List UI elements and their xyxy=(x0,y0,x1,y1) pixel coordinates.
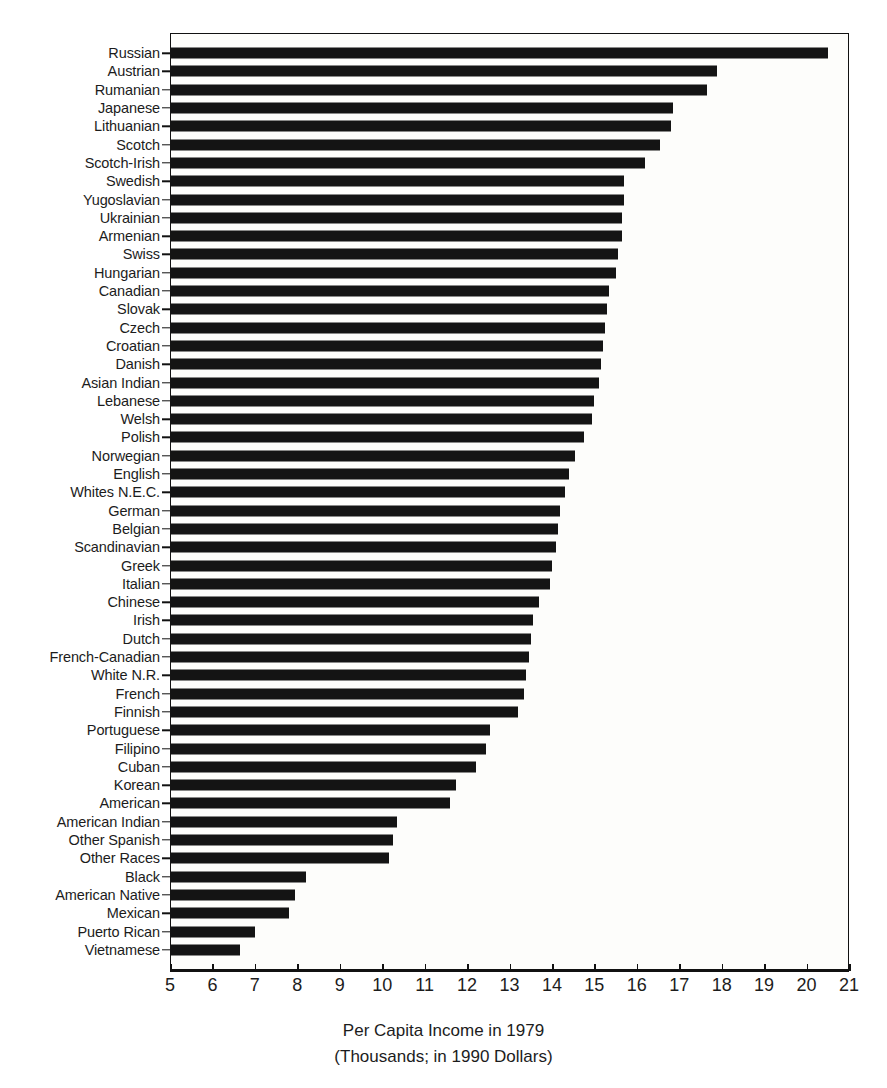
bar xyxy=(170,377,599,388)
category-label: Armenian xyxy=(99,227,160,245)
bar xyxy=(170,286,609,297)
bar-row xyxy=(170,904,849,922)
category-label: American Native xyxy=(55,886,160,904)
category-tick xyxy=(162,803,170,804)
bar-row xyxy=(170,758,849,776)
bar-row xyxy=(170,502,849,520)
category-label: Russian xyxy=(108,44,160,62)
category-label: Lithuanian xyxy=(94,117,160,135)
bar xyxy=(170,432,584,443)
bar xyxy=(170,121,671,132)
category-label-row: Filipino xyxy=(0,739,170,757)
bar xyxy=(170,304,607,315)
category-label-row: Greek xyxy=(0,556,170,574)
x-axis-tick xyxy=(594,964,596,971)
category-label: Finnish xyxy=(114,703,160,721)
category-tick xyxy=(162,858,170,859)
category-label: Scandinavian xyxy=(74,538,160,556)
x-axis-tick-label: 5 xyxy=(165,975,175,996)
category-label-row: Belgian xyxy=(0,520,170,538)
category-label: Slovak xyxy=(117,300,160,318)
category-label: American Indian xyxy=(57,813,160,831)
category-tick xyxy=(162,272,170,273)
bar-row xyxy=(170,538,849,556)
category-label-row: Chinese xyxy=(0,593,170,611)
category-label-row: Dutch xyxy=(0,630,170,648)
x-axis-tick-label: 21 xyxy=(839,975,859,996)
category-label: Filipino xyxy=(115,739,160,757)
bar-row xyxy=(170,300,849,318)
x-axis-tick-label: 12 xyxy=(457,975,477,996)
category-label: Other Races xyxy=(80,849,160,867)
category-label: Canadian xyxy=(99,282,160,300)
category-tick xyxy=(162,528,170,529)
category-tick xyxy=(162,162,170,163)
category-label: Austrian xyxy=(108,62,160,80)
category-tick xyxy=(162,309,170,310)
category-label-row: Scandinavian xyxy=(0,538,170,556)
bar-row xyxy=(170,99,849,117)
category-label-row: Canadian xyxy=(0,282,170,300)
category-label: Irish xyxy=(133,611,160,629)
bar xyxy=(170,212,622,223)
category-label: Asian Indian xyxy=(81,373,160,391)
bars-layer xyxy=(170,33,849,970)
category-label: Hungarian xyxy=(94,264,160,282)
bar-row xyxy=(170,282,849,300)
category-tick xyxy=(162,876,170,877)
category-tick xyxy=(162,181,170,182)
category-label: Portuguese xyxy=(87,721,160,739)
bar-row xyxy=(170,483,849,501)
x-axis-tick-label: 17 xyxy=(669,975,689,996)
category-label-row: Ukrainian xyxy=(0,209,170,227)
bar-row xyxy=(170,337,849,355)
x-axis-tick-label: 6 xyxy=(207,975,217,996)
category-tick xyxy=(162,894,170,895)
category-tick xyxy=(162,583,170,584)
category-label-row: Austrian xyxy=(0,62,170,80)
x-axis-title: Per Capita Income in 1979 xyxy=(0,1018,887,1044)
bar-row xyxy=(170,593,849,611)
x-axis-tick xyxy=(170,964,172,971)
category-tick xyxy=(162,638,170,639)
category-label: Japanese xyxy=(98,99,160,117)
bar-row xyxy=(170,135,849,153)
bar-row xyxy=(170,447,849,465)
category-label-row: American xyxy=(0,794,170,812)
category-label: Czech xyxy=(119,318,160,336)
category-label: Yugoslavian xyxy=(83,190,160,208)
chart-figure: RussianAustrianRumanianJapaneseLithuania… xyxy=(0,0,887,1088)
category-tick xyxy=(162,345,170,346)
category-label-row: Rumanian xyxy=(0,81,170,99)
category-tick xyxy=(162,327,170,328)
category-label: Greek xyxy=(121,556,160,574)
bar-row xyxy=(170,648,849,666)
category-tick xyxy=(162,601,170,602)
category-label-row: Polish xyxy=(0,428,170,446)
category-label: Mexican xyxy=(107,904,160,922)
category-label-row: Asian Indian xyxy=(0,373,170,391)
bar xyxy=(170,359,601,370)
bar xyxy=(170,670,526,681)
bar-row xyxy=(170,831,849,849)
bar xyxy=(170,908,289,919)
bar xyxy=(170,523,558,534)
category-label: Korean xyxy=(114,776,160,794)
category-tick xyxy=(162,784,170,785)
bar xyxy=(170,66,717,77)
bar xyxy=(170,597,539,608)
bar-row xyxy=(170,117,849,135)
category-label: Scotch xyxy=(116,135,160,153)
category-tick xyxy=(162,290,170,291)
bar-row xyxy=(170,630,849,648)
bar-row xyxy=(170,392,849,410)
bar xyxy=(170,157,645,168)
x-axis-tick-label: 13 xyxy=(499,975,519,996)
bar xyxy=(170,48,828,59)
bar-row xyxy=(170,922,849,940)
x-axis-tick xyxy=(637,964,639,971)
category-label: Whites N.E.C. xyxy=(70,483,160,501)
category-label-row: Danish xyxy=(0,355,170,373)
category-label-row: Czech xyxy=(0,318,170,336)
x-axis-tick xyxy=(552,964,554,971)
